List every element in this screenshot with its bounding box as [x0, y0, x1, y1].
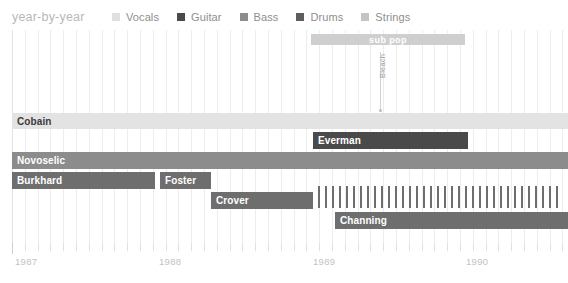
axis-tick: [102, 243, 103, 250]
stripe-mark: [556, 186, 558, 208]
gridline: [153, 30, 154, 252]
axis-tick: [345, 243, 346, 250]
gridline: [63, 30, 64, 252]
timeline-bar-foster[interactable]: Foster: [160, 172, 211, 189]
legend-item-strings[interactable]: Strings: [361, 11, 410, 23]
stripe-mark: [528, 186, 530, 208]
timeline-bar-novoselic[interactable]: Novoselic: [12, 152, 568, 169]
timeline-bar-cobain[interactable]: Cobain: [12, 113, 568, 129]
stripe-mark: [486, 186, 488, 208]
chart-header: year-by-year VocalsGuitarBassDrumsString…: [0, 0, 568, 30]
gridline: [50, 30, 51, 252]
axis-tick: [230, 243, 231, 250]
gridline: [140, 30, 141, 252]
axis-tick: [12, 243, 13, 254]
timeline-bar-label: Foster: [160, 175, 196, 186]
axis-tick: [191, 243, 192, 250]
axis-tick: [306, 243, 307, 250]
timeline-bar-label: Channing: [335, 215, 387, 226]
axis-tick: [153, 243, 154, 250]
axis-tick: [63, 243, 64, 250]
axis-year-label: 1990: [466, 256, 488, 267]
stripe-mark: [318, 186, 320, 208]
axis-tick: [383, 243, 384, 250]
gridline: [230, 30, 231, 252]
axis-tick: [498, 243, 499, 250]
legend-item-label: Guitar: [191, 11, 222, 23]
gridline: [217, 30, 218, 252]
timeline-bar-everman[interactable]: Everman: [313, 132, 468, 149]
stripe-mark: [409, 186, 411, 208]
legend-swatch-icon: [112, 13, 120, 21]
stripe-mark: [360, 186, 362, 208]
legend-item-guitar[interactable]: Guitar: [177, 11, 222, 23]
stripe-mark: [423, 186, 425, 208]
stripe-mark: [535, 186, 537, 208]
gridline: [281, 30, 282, 252]
legend-item-label: Vocals: [126, 11, 159, 23]
stripe-mark: [388, 186, 390, 208]
stripe-mark: [521, 186, 523, 208]
timeline-bar-channing[interactable]: Channing: [335, 212, 568, 229]
axis-tick: [242, 243, 243, 250]
page-title: year-by-year: [12, 10, 85, 24]
legend-item-label: Drums: [310, 11, 343, 23]
gridline: [89, 30, 90, 252]
gridline: [268, 30, 269, 252]
stripe-mark: [437, 186, 439, 208]
legend-item-label: Strings: [375, 11, 410, 23]
axis-year-label: 1987: [15, 256, 37, 267]
timeline-bar-burkhard[interactable]: Burkhard: [12, 172, 155, 189]
timeline-stripe-band-interim-drummers[interactable]: [318, 186, 568, 208]
legend-swatch-icon: [296, 13, 304, 21]
stripe-mark: [493, 186, 495, 208]
stripe-mark: [346, 186, 348, 208]
timeline-bar-crover[interactable]: Crover: [211, 192, 313, 209]
stripe-mark: [458, 186, 460, 208]
gridline: [242, 30, 243, 252]
gridline: [114, 30, 115, 252]
legend-item-vocals[interactable]: Vocals: [112, 11, 159, 23]
axis-tick: [217, 243, 218, 250]
axis-tick: [178, 243, 179, 250]
gridline: [25, 30, 26, 252]
stripe-mark: [479, 186, 481, 208]
axis-tick: [127, 243, 128, 250]
legend-item-bass[interactable]: Bass: [240, 11, 279, 23]
timeline-bar-label: Novoselic: [12, 155, 65, 166]
axis-tick: [281, 243, 282, 250]
axis-tick: [409, 243, 410, 250]
gridline: [204, 30, 205, 252]
axis-tick: [473, 243, 474, 250]
release-marker-label: Bleach: [378, 54, 387, 78]
axis-tick: [140, 243, 141, 250]
stripe-mark: [381, 186, 383, 208]
release-marker-dot: [379, 109, 382, 112]
stripe-mark: [367, 186, 369, 208]
gridline: [38, 30, 39, 252]
gridline: [76, 30, 77, 252]
sub-pop-label-band: sub pop: [311, 34, 465, 45]
timeline-bar-label: Burkhard: [12, 175, 62, 186]
gridline: [255, 30, 256, 252]
axis-year-label: 1989: [313, 256, 335, 267]
axis-tick: [370, 243, 371, 250]
legend-item-drums[interactable]: Drums: [296, 11, 343, 23]
legend: VocalsGuitarBassDrumsStrings: [112, 11, 428, 23]
stripe-mark: [444, 186, 446, 208]
gridline: [166, 30, 167, 252]
gridline: [306, 30, 307, 252]
stripe-mark: [374, 186, 376, 208]
gridline: [178, 30, 179, 252]
axis-tick: [332, 243, 333, 250]
axis-tick: [434, 243, 435, 250]
axis-tick: [447, 243, 448, 250]
axis-tick: [268, 243, 269, 250]
gridline: [102, 30, 103, 252]
stripe-mark: [549, 186, 551, 208]
axis-tick: [294, 243, 295, 250]
timeline-bar-label: Crover: [211, 195, 249, 206]
stripe-mark: [325, 186, 327, 208]
stripe-mark: [332, 186, 334, 208]
gridline: [191, 30, 192, 252]
